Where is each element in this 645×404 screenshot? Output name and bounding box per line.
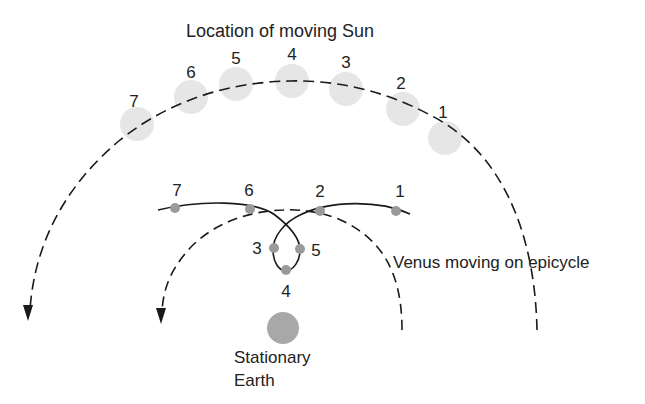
sun-position-number: 6 [186, 63, 195, 82]
venus-path [158, 203, 410, 271]
venus-position-number: 6 [244, 181, 253, 200]
sun-position-number: 5 [231, 49, 240, 68]
sun-position-number: 7 [129, 92, 138, 111]
venus-position: 2 [315, 182, 325, 216]
sun-icon [329, 72, 363, 106]
sun-orbit-arrow-icon [23, 305, 33, 321]
epicycle-diagram: Location of moving Sun 1234567 1234567 S… [0, 0, 645, 404]
earth-label-line2: Earth [234, 371, 275, 390]
sun-position: 7 [120, 92, 154, 141]
venus-position: 7 [170, 181, 182, 213]
sun-position: 1 [428, 103, 462, 155]
venus-position-number: 5 [311, 241, 320, 260]
sun-position: 4 [275, 45, 309, 98]
venus-position-number: 2 [315, 182, 324, 201]
earth-icon [267, 312, 299, 344]
venus-label: Venus moving on epicycle [393, 253, 590, 272]
venus-position: 4 [281, 265, 291, 301]
venus-position-number: 1 [395, 182, 404, 201]
sun-position-number: 2 [396, 74, 405, 93]
venus-dot-icon [295, 244, 305, 254]
venus-position-number: 4 [281, 282, 290, 301]
venus-dot-icon [245, 204, 255, 214]
sun-position-number: 1 [438, 103, 447, 122]
sun-icon [174, 80, 208, 114]
deferent-arrow-icon [156, 308, 166, 324]
sun-icon [428, 121, 462, 155]
venus-dot-icon [170, 203, 180, 213]
venus-position-number: 7 [172, 181, 181, 200]
sun-position: 5 [219, 49, 253, 101]
sun-position-number: 4 [287, 45, 296, 64]
earth-label-line1: Stationary [234, 348, 311, 367]
sun-position: 3 [329, 53, 363, 106]
venus-position-number: 3 [252, 239, 261, 258]
venus-position: 6 [244, 181, 255, 214]
venus-positions: 1234567 [170, 181, 405, 301]
sun-position: 2 [386, 74, 420, 126]
venus-dot-icon [269, 243, 279, 253]
sun-position: 6 [174, 63, 208, 114]
venus-dot-icon [281, 265, 291, 275]
sun-icon [219, 67, 253, 101]
sun-path-title: Location of moving Sun [186, 21, 374, 41]
sun-positions: 1234567 [120, 45, 462, 155]
sun-icon [120, 107, 154, 141]
sun-position-number: 3 [341, 53, 350, 72]
venus-dot-icon [391, 206, 401, 216]
venus-dot-icon [315, 206, 325, 216]
